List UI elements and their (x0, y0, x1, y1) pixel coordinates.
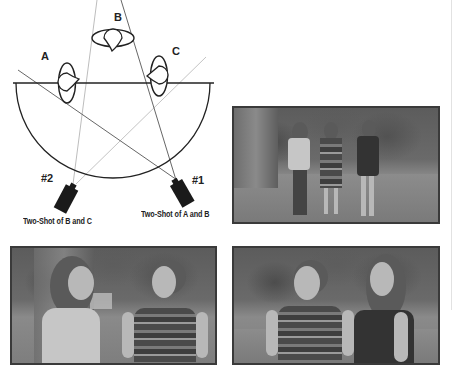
camera-label-1: #1 (192, 174, 204, 186)
person-c-icon (147, 56, 168, 96)
placement-arc (16, 83, 210, 178)
diagram-svg (0, 0, 230, 230)
camera-label-2: #2 (41, 172, 53, 184)
photo-two-shot-left (10, 246, 217, 365)
camera-1-icon (168, 176, 195, 208)
sight-line-cam2-right (76, 57, 206, 184)
camera-placement-diagram: A B C #2 #1 Two-Shot of B and C Two-Shot… (0, 0, 230, 230)
tree-trunk (234, 108, 278, 188)
person-a-icon (58, 63, 79, 103)
sight-line-cam2-left (73, 0, 97, 184)
camera-2-caption: Two-Shot of B and C (23, 216, 92, 226)
page-edge-rule (451, 0, 452, 310)
camera-1-caption: Two-Shot of A and B (141, 209, 209, 219)
sight-line-cam1-right (121, 0, 176, 180)
camera-2-icon (54, 181, 80, 214)
person-label-b: B (114, 11, 122, 23)
photo-wide-three-shot (232, 106, 440, 224)
person-b-icon (92, 29, 134, 51)
garden-chair (90, 293, 112, 309)
person-label-a: A (41, 50, 49, 62)
person-label-c: C (172, 45, 180, 57)
photo-two-shot-right (232, 246, 440, 365)
